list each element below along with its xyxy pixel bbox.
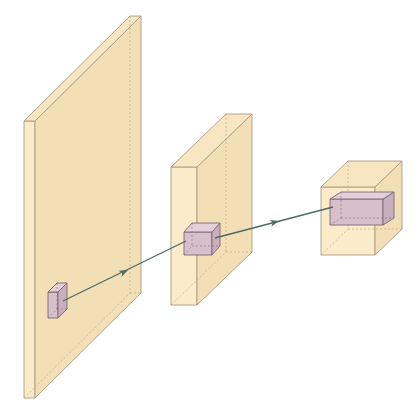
cnn-receptive-field-diagram bbox=[0, 0, 420, 418]
input-layer bbox=[24, 16, 141, 398]
diagram-canvas bbox=[0, 0, 420, 418]
output-kernel bbox=[330, 192, 394, 225]
hidden-layer bbox=[171, 114, 252, 305]
hidden-kernel bbox=[184, 223, 220, 255]
